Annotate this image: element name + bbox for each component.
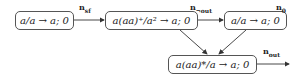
edge-n2-n4 (180, 30, 207, 54)
node-n-not-out-rule: a(aa)⁺/a² → a; 0 (113, 15, 191, 26)
node-n-0-rule: a/a → a; 0 (231, 15, 280, 26)
label-n-sf: nsf (79, 2, 91, 14)
node-n-out: a(aa)*/a → a; 0 (168, 55, 257, 74)
node-n-sf-rule: a/a → a; 0 (20, 15, 69, 26)
label-n-0: n0 (276, 2, 286, 14)
edge-n3-n4 (219, 30, 246, 54)
node-n-out-rule: a(aa)*/a → a; 0 (176, 59, 250, 70)
label-n-out: nout (263, 46, 280, 58)
label-n-not-out: n¬out (190, 2, 212, 14)
node-n-sf: a/a → a; 0 (15, 11, 74, 30)
node-n-not-out: a(aa)⁺/a² → a; 0 (105, 11, 198, 30)
node-n-0: a/a → a; 0 (224, 11, 287, 30)
